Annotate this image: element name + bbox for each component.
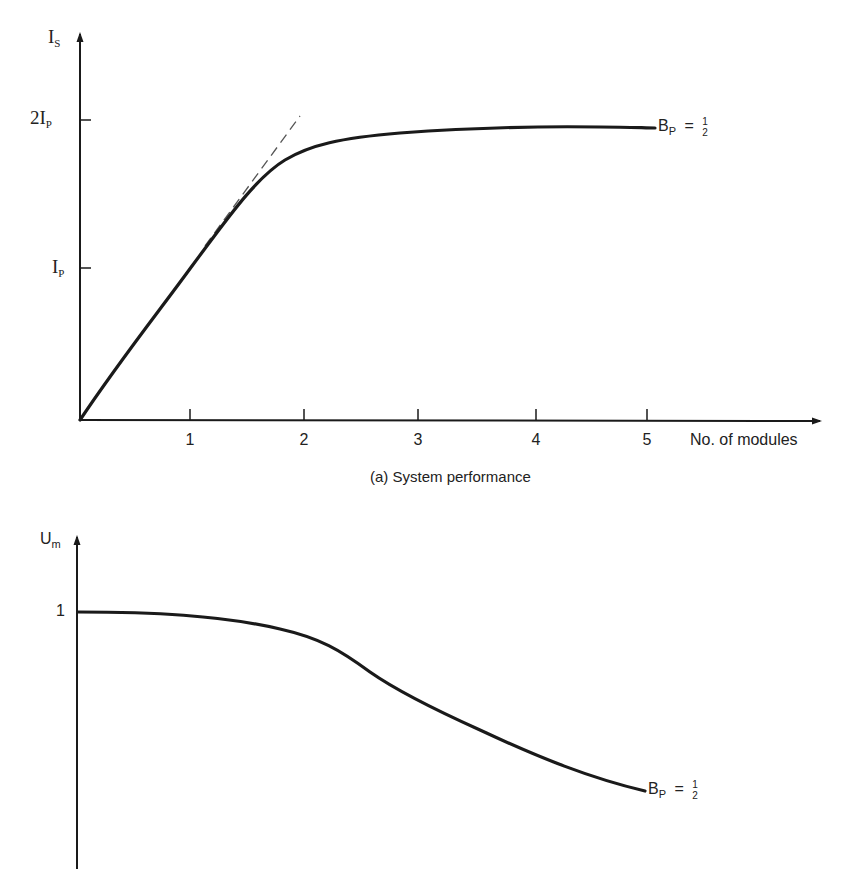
curve-label-sub: P (669, 125, 676, 137)
curve-label-main: B (648, 780, 659, 797)
bottom-y-axis-label: Um (40, 530, 61, 550)
x-tick-label-4: 4 (526, 431, 546, 449)
denominator: 2 (692, 790, 698, 801)
y-tick-label-ip: IP (52, 256, 64, 279)
curve-label-sub: P (659, 788, 666, 800)
performance-curve (80, 127, 655, 420)
tick-sub: P (58, 267, 64, 279)
tick-sub: P (46, 118, 52, 130)
x-tick-label-3: 3 (408, 431, 428, 449)
fraction-half: 12 (702, 116, 708, 138)
y-tick-label-1: 1 (56, 602, 65, 620)
x-tick-label-2: 2 (294, 431, 314, 449)
y-label-main: U (40, 530, 52, 547)
top-y-axis-label: IS (48, 26, 60, 49)
fraction-half: 12 (692, 779, 698, 801)
top-x-axis (79, 420, 820, 421)
x-tick-label-5: 5 (637, 431, 657, 449)
numerator: 1 (702, 116, 708, 127)
y-label-sub: S (54, 37, 60, 49)
curve-label-eq: = (674, 780, 683, 797)
utilization-curve (78, 612, 645, 791)
x-tick-label-1: 1 (180, 431, 200, 449)
numerator: 1 (692, 779, 698, 790)
bottom-chart (77, 537, 645, 869)
dashed-asymptote (205, 116, 300, 246)
curve-label-eq: = (684, 117, 693, 134)
top-curve-label: BP = 12 (658, 116, 708, 138)
top-chart (79, 34, 820, 421)
y-tick-label-2ip: 2IP (30, 107, 52, 130)
curve-label-main: B (658, 117, 669, 134)
x-axis-label: No. of modules (690, 431, 798, 449)
bottom-curve-label: BP = 12 (648, 779, 698, 801)
denominator: 2 (702, 127, 708, 138)
tick-main: 2I (30, 107, 46, 128)
y-label-sub: m (52, 538, 61, 550)
figure-caption: (a) System performance (370, 468, 531, 485)
